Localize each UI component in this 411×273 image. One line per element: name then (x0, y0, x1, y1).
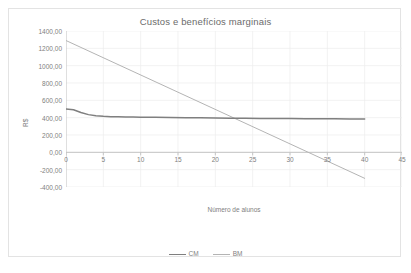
y-tick-label: -200,00 (40, 166, 62, 173)
y-tick-label: -400,00 (40, 184, 62, 191)
vertical-gridlines (66, 31, 402, 187)
legend-swatch-icon (169, 254, 186, 255)
x-tick-label: 0 (64, 156, 68, 163)
plot-svg (66, 31, 402, 187)
x-axis-title: Número de alunos (66, 206, 402, 213)
y-tick-label: 0,00 (49, 149, 62, 156)
chart-legend: CMBM (9, 251, 402, 258)
legend-label: CM (189, 251, 199, 258)
x-tick-label: 45 (398, 156, 405, 163)
horizontal-gridlines (66, 31, 402, 187)
y-tick-label: 1000,00 (39, 62, 63, 69)
x-tick-label: 5 (102, 156, 106, 163)
y-tick-label: 800,00 (42, 80, 62, 87)
x-tick-label: 35 (324, 156, 331, 163)
y-tick-label: 1400,00 (39, 28, 63, 35)
chart-frame: Custos e benefícios marginais R$ 1400,00… (8, 8, 401, 257)
legend-swatch-icon (213, 254, 230, 255)
y-axis-title: R$ (22, 119, 29, 127)
x-tick-label: 15 (174, 156, 181, 163)
axis-lines (66, 31, 402, 187)
y-tick-label: 400,00 (42, 114, 62, 121)
x-tick-label: 30 (286, 156, 293, 163)
x-tick-label: 25 (249, 156, 256, 163)
y-tick-label: 600,00 (42, 97, 62, 104)
legend-item-bm[interactable]: BM (213, 251, 243, 258)
x-tick-label: 10 (137, 156, 144, 163)
x-tick-label: 40 (361, 156, 368, 163)
y-tick-label: 1200,00 (39, 45, 63, 52)
plot-area: 1400,001200,001000,00800,00600,00400,002… (66, 31, 402, 187)
legend-item-cm[interactable]: CM (169, 251, 199, 258)
x-tick-label: 20 (212, 156, 219, 163)
legend-label: BM (233, 251, 243, 258)
y-tick-label: 200,00 (42, 132, 62, 139)
chart-title: Custos e benefícios marginais (9, 16, 402, 27)
